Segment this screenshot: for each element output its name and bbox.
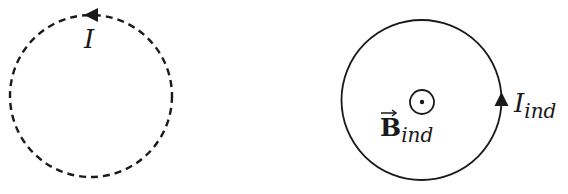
left-loop: I [10,8,172,177]
left-loop-current-arrow-icon [84,8,98,22]
induced-current-label: Iind [513,88,556,123]
right-loop: Iind Bind [342,20,557,180]
right-loop-current-arrow-icon [495,92,509,106]
left-loop-current-label: I [83,24,95,54]
field-out-of-page-icon [410,90,434,114]
diagram-canvas: I Iind Bind [0,0,568,194]
induced-field-label: Bind [380,113,433,147]
